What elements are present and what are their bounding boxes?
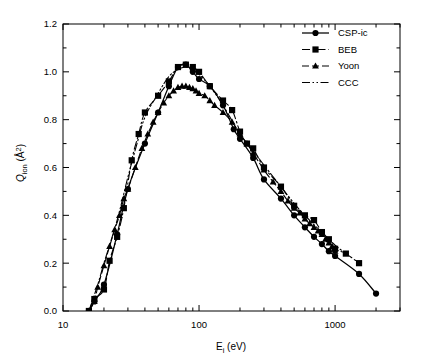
x-tick-label: 100 xyxy=(191,319,207,330)
data-point-circle xyxy=(319,241,325,247)
data-point-circle xyxy=(312,30,318,36)
y-tick-label: 0.0 xyxy=(44,305,57,316)
data-point-circle xyxy=(291,212,297,218)
y-tick-label: 0.8 xyxy=(44,114,57,125)
legend-label: CSP-ic xyxy=(338,27,368,38)
data-point-square xyxy=(312,46,318,52)
data-point-circle xyxy=(332,253,338,259)
data-point-square xyxy=(101,286,107,292)
y-tick-label: 0.6 xyxy=(44,162,57,173)
x-tick-label: 1000 xyxy=(325,319,346,330)
data-point-circle xyxy=(278,195,284,201)
y-tick-label: 1.0 xyxy=(44,66,57,77)
data-point-square xyxy=(190,64,196,70)
data-point-circle xyxy=(326,248,332,254)
legend-label: CCC xyxy=(338,77,359,88)
legend-label: BEB xyxy=(338,44,357,55)
data-point-square xyxy=(356,260,362,266)
data-point-square xyxy=(229,107,235,113)
ionization-cross-section-chart: 101001000 0.00.20.40.60.81.01.2 CSP-icBE… xyxy=(0,0,425,359)
data-point-circle xyxy=(356,271,362,277)
data-point-square xyxy=(114,234,120,240)
figure-container: 101001000 0.00.20.40.60.81.01.2 CSP-icBE… xyxy=(0,0,425,359)
chart-background xyxy=(0,0,425,359)
y-tick-label: 0.4 xyxy=(44,210,57,221)
data-point-square xyxy=(106,258,112,264)
data-point-circle xyxy=(311,234,317,240)
y-tick-label: 1.2 xyxy=(44,18,57,29)
data-point-circle xyxy=(373,290,379,296)
y-tick-label: 0.2 xyxy=(44,258,57,269)
legend-label: Yoon xyxy=(338,60,359,71)
x-tick-label: 10 xyxy=(58,319,69,330)
data-point-circle xyxy=(261,176,267,182)
